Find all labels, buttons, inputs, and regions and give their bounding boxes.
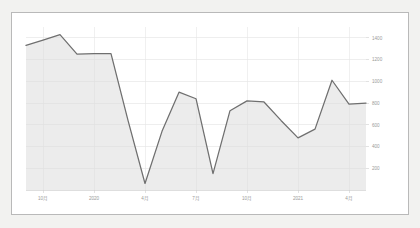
x-tick-label: 2021 bbox=[293, 196, 304, 201]
y-tick-label: 800 bbox=[372, 101, 380, 106]
screenshot-root: 140012001000800600400200 10月20204月7月10月2… bbox=[0, 0, 420, 228]
x-tick-label: 10月 bbox=[38, 196, 48, 202]
x-tick-label: 4月 bbox=[141, 196, 149, 202]
plot-area: 140012001000800600400200 10月20204月7月10月2… bbox=[12, 13, 408, 214]
chart-panel: 140012001000800600400200 10月20204月7月10月2… bbox=[11, 12, 409, 215]
y-tick-label: 1000 bbox=[372, 79, 383, 84]
x-tick-label: 4月 bbox=[345, 196, 353, 202]
x-axis-tick-labels: 10月20204月7月10月20214月 bbox=[38, 196, 353, 202]
x-tick-label: 2020 bbox=[89, 196, 100, 201]
x-tick-label: 7月 bbox=[192, 196, 200, 202]
y-tick-label: 200 bbox=[372, 166, 380, 171]
x-tick-label: 10月 bbox=[242, 196, 252, 202]
y-tick-label: 1400 bbox=[372, 36, 383, 41]
line-area-chart: 140012001000800600400200 10月20204月7月10月2… bbox=[12, 13, 408, 214]
x-axis-tick-marks bbox=[43, 190, 349, 193]
y-axis-tick-labels: 140012001000800600400200 bbox=[372, 36, 383, 171]
y-tick-label: 600 bbox=[372, 123, 380, 128]
y-tick-label: 400 bbox=[372, 144, 380, 149]
y-tick-label: 1200 bbox=[372, 57, 383, 62]
